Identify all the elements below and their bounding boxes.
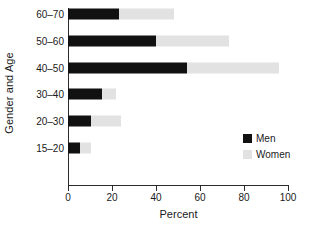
x-axis-title: Percent [68, 208, 289, 220]
x-axis-tick [200, 186, 201, 191]
x-axis-tick [244, 186, 245, 191]
legend-item: Men [243, 131, 290, 145]
bar-segment-women [187, 62, 279, 73]
bar-segment-men [68, 143, 80, 154]
x-axis-tick-label: 40 [150, 192, 161, 203]
x-axis-tick [156, 186, 157, 191]
x-axis-tick [288, 186, 289, 191]
bar-row [68, 62, 288, 73]
x-axis-tick-label: 100 [280, 192, 297, 203]
y-axis-tick-label: 40–50 [18, 62, 64, 73]
legend-label: Women [256, 149, 290, 160]
legend-item: Women [243, 147, 290, 161]
y-axis-tick-label: 20–30 [18, 116, 64, 127]
x-axis-tick [112, 186, 113, 191]
legend-label: Men [256, 133, 275, 144]
bar-segment-women [119, 9, 174, 20]
x-axis-tick [68, 186, 69, 191]
x-axis-title-text: Percent [160, 208, 198, 220]
bar-segment-women [156, 35, 229, 46]
legend-swatch [243, 134, 252, 143]
legend-swatch [243, 150, 252, 159]
y-axis-title: Gender and Age [0, 0, 18, 185]
bar-row [68, 9, 288, 20]
x-axis-tick-label: 20 [106, 192, 117, 203]
bar-row [68, 89, 288, 100]
y-axis-tick-label: 30–40 [18, 89, 64, 100]
bar-segment-men [68, 89, 102, 100]
bar-segment-men [68, 9, 119, 20]
bar-row [68, 116, 288, 127]
x-axis-tick-label: 80 [238, 192, 249, 203]
x-axis-tick-label: 0 [65, 192, 71, 203]
bar-chart-figure: Gender and Age 60–7050–6040–5030–4020–30… [0, 0, 311, 230]
x-axis-tick-label: 60 [194, 192, 205, 203]
bar-segment-men [68, 62, 187, 73]
bar-segment-women [102, 89, 116, 100]
y-axis-tick-label: 15–20 [18, 143, 64, 154]
bar-segment-men [68, 35, 156, 46]
bar-segment-women [80, 143, 91, 154]
y-axis-tick-label: 50–60 [18, 35, 64, 46]
chart-legend: MenWomen [243, 131, 290, 163]
y-axis-tick-label: 60–70 [18, 9, 64, 20]
bar-row [68, 35, 288, 46]
bar-segment-men [68, 116, 91, 127]
bar-segment-women [91, 116, 121, 127]
y-axis-title-text: Gender and Age [3, 52, 15, 134]
